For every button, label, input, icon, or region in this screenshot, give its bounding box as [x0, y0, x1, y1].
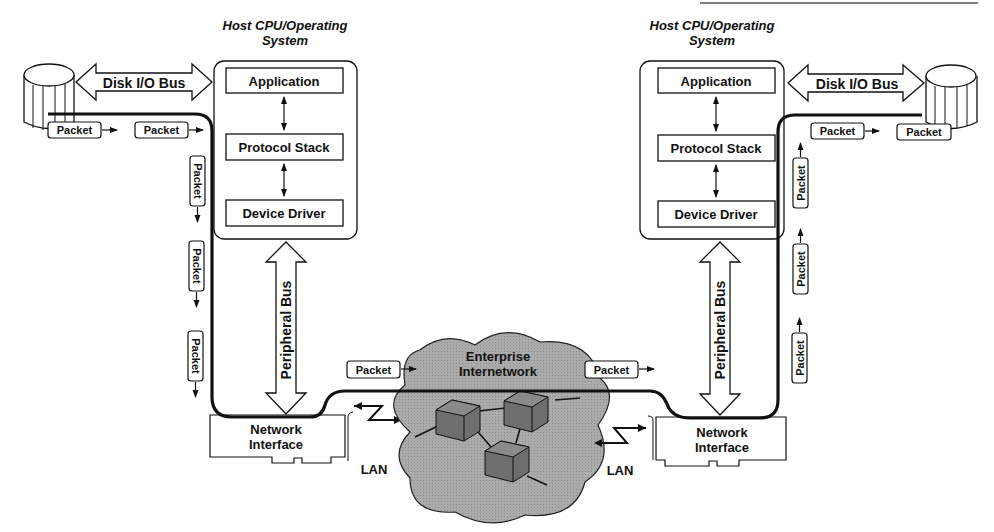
packet-label: Packet — [793, 143, 808, 208]
svg-text:Packet: Packet — [356, 364, 392, 376]
svg-text:Packet: Packet — [906, 126, 942, 138]
left-protocol-stack-label: Protocol Stack — [238, 140, 330, 155]
left-host-title-line1: Host CPU/Operating — [223, 18, 348, 33]
svg-text:Packet: Packet — [192, 163, 204, 199]
left-nic-bracket — [348, 412, 353, 461]
right-host-title-line2: System — [689, 33, 736, 48]
packet-label: Packet — [48, 122, 117, 138]
right-host-title-line1: Host CPU/Operating — [650, 18, 775, 33]
svg-text:Packet: Packet — [57, 124, 93, 136]
right-peripheral-bus-label: Peripheral Bus — [712, 280, 728, 379]
enterprise-internetwork-cloud: Enterprise Internetwork — [394, 333, 610, 523]
left-nic-label-line1: Network — [250, 422, 302, 437]
left-nic-label-line2: Interface — [249, 437, 303, 452]
packet-label: Packet — [135, 122, 203, 138]
svg-text:Packet: Packet — [190, 338, 202, 374]
packet-label: Packet — [897, 124, 951, 140]
left-lan-label: LAN — [361, 462, 388, 477]
right-disk-icon — [926, 65, 977, 129]
packet-label: Packet — [189, 241, 204, 307]
router-icon — [436, 400, 480, 441]
right-protocol-stack-label: Protocol Stack — [670, 141, 762, 156]
svg-text:Packet: Packet — [191, 248, 203, 284]
right-nic-label-line2: Interface — [695, 440, 749, 455]
packet-label: Packet — [188, 331, 203, 397]
left-host-title-line2: System — [262, 33, 309, 48]
network-data-path-diagram: Host CPU/Operating System Application Pr… — [0, 0, 994, 532]
left-disk-io-bus-label: Disk I/O Bus — [103, 75, 186, 91]
right-application-label: Application — [681, 74, 752, 89]
svg-text:Packet: Packet — [795, 251, 807, 287]
left-device-driver-label: Device Driver — [242, 206, 325, 221]
router-icon — [504, 391, 548, 432]
packet-label: Packet — [811, 123, 879, 139]
right-host: Host CPU/Operating System Application Pr… — [594, 18, 977, 478]
right-lan-label: LAN — [607, 463, 634, 478]
svg-text:Packet: Packet — [795, 165, 807, 201]
packet-label: Packet — [190, 156, 205, 222]
left-application-label: Application — [249, 74, 320, 89]
left-peripheral-bus-label: Peripheral Bus — [278, 280, 294, 379]
svg-text:Packet: Packet — [144, 124, 180, 136]
router-icon — [485, 441, 529, 482]
left-disk-icon — [24, 64, 74, 130]
right-disk-io-bus-label: Disk I/O Bus — [816, 76, 899, 92]
right-device-driver-label: Device Driver — [674, 207, 757, 222]
packet-label: Packet — [792, 318, 807, 383]
cloud-label-line1: Enterprise — [466, 349, 530, 364]
svg-text:Packet: Packet — [594, 364, 630, 376]
svg-text:Packet: Packet — [794, 340, 806, 376]
right-nic-label-line1: Network — [696, 425, 748, 440]
packet-label: Packet — [585, 361, 654, 378]
svg-text:Packet: Packet — [820, 125, 856, 137]
right-nic-bracket — [648, 416, 653, 460]
packet-label: Packet — [793, 229, 808, 294]
cloud-label-line2: Internetwork — [459, 364, 538, 379]
